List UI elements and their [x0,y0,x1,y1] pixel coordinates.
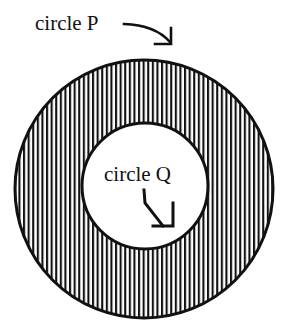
inner-circle-q [82,123,208,249]
label-circle-q: circle Q [104,162,171,186]
diagram-canvas: circle P circle Q [0,0,292,333]
concentric-circles-diagram: circle P circle Q [0,0,292,333]
label-circle-p: circle P [35,11,99,35]
